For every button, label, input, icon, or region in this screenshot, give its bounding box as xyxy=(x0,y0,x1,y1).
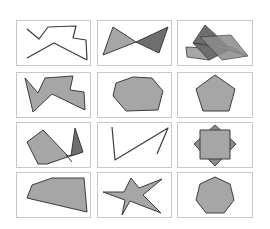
shape-concave-polygon xyxy=(25,76,85,112)
shape-irregular-pentagon xyxy=(27,178,87,212)
shape-square-over-diamond xyxy=(194,125,236,166)
shape-regular-heptagon xyxy=(196,177,234,213)
polygon-grid-figure xyxy=(0,0,270,229)
shape-zigzag-polylines xyxy=(27,26,87,60)
shape-irregular-heptagon xyxy=(113,77,163,111)
shape-open-polyline xyxy=(112,127,168,160)
shape-quad-with-triangle xyxy=(27,128,83,164)
shape-overlapping-parallelograms xyxy=(186,25,248,60)
shape-irregular-star xyxy=(103,178,162,215)
shape-pentagon xyxy=(196,75,235,111)
shape-bowtie xyxy=(103,27,168,55)
